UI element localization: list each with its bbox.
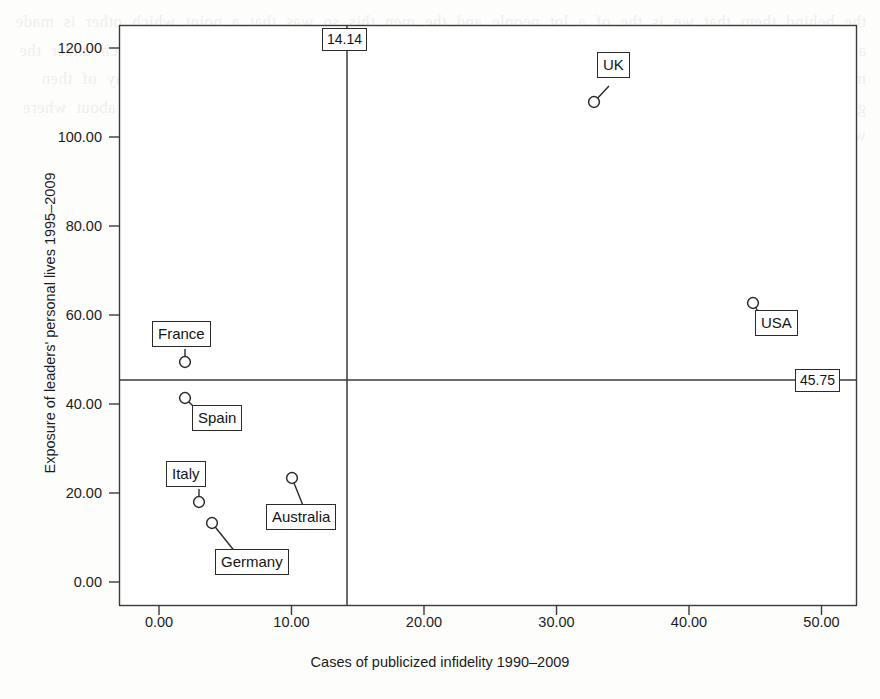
y-tick-label-5: 100.00	[20, 129, 102, 145]
data-point-germany	[207, 518, 218, 529]
x-tick-label-3: 30.00	[538, 614, 574, 630]
y-tick-label-4: 80.00	[20, 218, 102, 234]
y-axis-title: Exposure of leaders' personal lives 1995…	[42, 43, 58, 603]
scatter-chart-figure: 0.00 10.00 20.00 30.00 40.00 50.00 0.00 …	[0, 0, 880, 699]
data-point-spain	[180, 393, 191, 404]
x-tick-label-2: 20.00	[406, 614, 442, 630]
y-axis-ticks	[109, 48, 119, 582]
point-label-spain: Spain	[192, 405, 242, 431]
x-tick-label-4: 40.00	[671, 614, 707, 630]
x-axis-ticks	[159, 605, 822, 615]
point-label-germany: Germany	[215, 549, 289, 575]
reference-label-vertical: 14.14	[322, 28, 367, 51]
point-label-uk: UK	[597, 52, 630, 78]
data-point-uk	[589, 97, 600, 108]
plot-canvas	[0, 0, 880, 699]
plot-frame	[120, 26, 857, 606]
x-tick-label-5: 50.00	[803, 614, 839, 630]
point-label-france: France	[152, 321, 211, 347]
y-tick-label-0: 0.00	[20, 574, 102, 590]
y-tick-label-2: 40.00	[20, 396, 102, 412]
point-label-italy: Italy	[166, 461, 206, 487]
data-point-italy	[194, 497, 205, 508]
data-point-usa	[748, 298, 759, 309]
x-axis-title: Cases of publicized infidelity 1990–2009	[0, 654, 880, 670]
x-tick-label-0: 0.00	[145, 614, 173, 630]
reference-label-horizontal: 45.75	[795, 369, 840, 392]
point-label-australia: Australia	[266, 504, 336, 530]
point-label-usa: USA	[755, 310, 798, 336]
y-tick-label-6: 120.00	[20, 40, 102, 56]
y-tick-label-1: 20.00	[20, 485, 102, 501]
data-point-france	[180, 357, 191, 368]
data-point-australia	[287, 473, 298, 484]
x-tick-label-1: 10.00	[273, 614, 309, 630]
y-tick-label-3: 60.00	[20, 307, 102, 323]
